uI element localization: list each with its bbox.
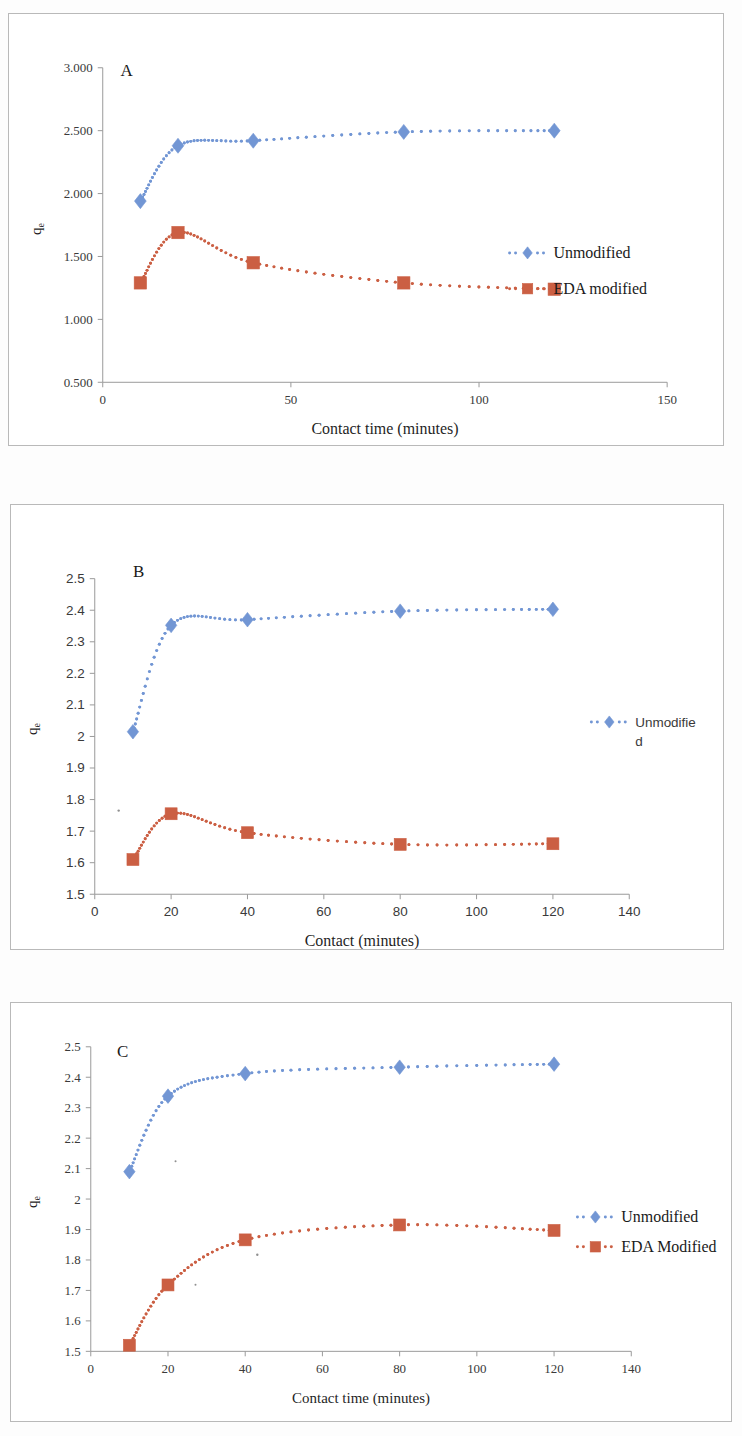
chart-b-plot-area: 1.51.61.71.81.922.12.22.32.42.5020406080…: [11, 505, 723, 949]
x-tick-label: 0: [100, 392, 106, 407]
data-point-eda: [398, 277, 410, 289]
legend-marker-unmodified: [605, 716, 614, 728]
x-tick-label: 60: [316, 1361, 329, 1376]
y-tick-label: 1.5: [65, 1344, 81, 1359]
y-tick-label: 1.6: [65, 1313, 82, 1328]
y-tick-label: 1.7: [66, 824, 85, 839]
legend-marker-eda: [522, 284, 532, 294]
legend-marker-unmodified: [591, 1211, 600, 1223]
y-tick-label: 1.8: [65, 1252, 81, 1267]
y-tick-label: 2.2: [66, 666, 85, 681]
y-axis-title: qe: [28, 222, 46, 234]
series-line-eda: [131, 812, 554, 861]
x-tick-label: 60: [316, 904, 331, 919]
series-line-eda: [139, 231, 556, 291]
y-tick-label: 1.500: [64, 249, 93, 264]
y-tick-label: 0.500: [64, 375, 93, 390]
x-tick-label: 140: [622, 1361, 641, 1376]
y-tick-label: 1.000: [64, 312, 93, 327]
data-point-eda: [165, 808, 177, 820]
x-tick-label: 140: [618, 904, 640, 919]
data-point-eda: [241, 827, 253, 839]
y-tick-label: 2: [77, 729, 84, 744]
chart-c-svg: 1.51.61.71.81.922.12.22.32.42.5020406080…: [11, 1003, 731, 1421]
chart-panel-c: 1.51.61.71.81.922.12.22.32.42.5020406080…: [10, 1002, 732, 1422]
y-tick-label: 2.2: [65, 1131, 81, 1146]
data-point-unmodified: [394, 604, 405, 619]
x-tick-label: 120: [544, 1361, 563, 1376]
y-tick-label: 2.5: [65, 1039, 81, 1054]
legend-label: Unmodifie: [635, 715, 696, 730]
data-point-unmodified: [127, 724, 138, 739]
data-point-eda: [547, 838, 559, 850]
legend-marker-unmodified: [523, 247, 532, 259]
y-axis-title: qe: [24, 722, 42, 734]
scan-speck: [118, 809, 120, 811]
y-tick-label: 1.9: [66, 761, 85, 776]
data-point-unmodified: [398, 124, 410, 139]
data-point-unmodified: [394, 1060, 405, 1075]
x-tick-label: 40: [240, 904, 255, 919]
y-tick-label: 1.9: [65, 1222, 81, 1237]
data-point-eda: [123, 1339, 135, 1351]
data-point-unmodified: [240, 1066, 251, 1081]
scan-speck: [194, 1284, 196, 1286]
data-point-unmodified: [548, 123, 560, 138]
x-tick-label: 100: [465, 904, 487, 919]
y-tick-label: 2.500: [64, 123, 93, 138]
data-point-eda: [134, 277, 146, 289]
data-point-unmodified: [247, 133, 259, 148]
y-tick-label: 3.000: [64, 60, 93, 75]
legend-label-cont: d: [635, 734, 642, 749]
legend-label: Unmodified: [553, 244, 630, 261]
x-tick-label: 0: [91, 904, 98, 919]
y-tick-label: 1.5: [66, 887, 85, 902]
y-tick-label: 2.5: [66, 571, 85, 586]
y-tick-label: 2.3: [66, 634, 85, 649]
panel-letter: C: [117, 1042, 128, 1061]
y-tick-label: 1.6: [66, 855, 85, 870]
series-line-unmodified: [128, 1063, 556, 1173]
data-point-eda: [247, 257, 259, 269]
x-tick-label: 20: [164, 904, 179, 919]
chart-a-plot-area: 0.5001.0001.5002.0002.5003.000050100150A…: [9, 14, 723, 445]
data-point-eda: [239, 1234, 251, 1246]
chart-b-svg: 1.51.61.71.81.922.12.22.32.42.5020406080…: [11, 505, 723, 949]
x-tick-label: 20: [162, 1361, 175, 1376]
data-point-unmodified: [124, 1164, 135, 1179]
x-axis-title: Contact time (minutes): [311, 420, 458, 438]
data-point-unmodified: [165, 618, 176, 633]
chart-c-plot-area: 1.51.61.71.81.922.12.22.32.42.5020406080…: [11, 1003, 731, 1421]
x-tick-label: 100: [467, 1361, 486, 1376]
y-tick-label: 1.8: [66, 792, 85, 807]
y-tick-label: 2.3: [65, 1100, 81, 1115]
data-point-unmodified: [547, 602, 558, 617]
y-tick-label: 2.1: [66, 697, 85, 712]
series-line-unmodified: [139, 129, 556, 202]
data-point-eda: [548, 1224, 560, 1236]
data-point-unmodified: [242, 612, 253, 627]
data-point-eda: [394, 1219, 406, 1231]
x-tick-label: 0: [88, 1361, 94, 1376]
x-tick-label: 120: [542, 904, 564, 919]
x-axis-title: Contact (minutes): [305, 932, 420, 949]
data-point-eda: [394, 838, 406, 850]
x-axis-title: Contact time (minutes): [292, 1390, 430, 1407]
data-point-eda: [127, 854, 139, 866]
x-tick-label: 80: [393, 1361, 406, 1376]
y-axis-title: qe: [24, 1196, 42, 1208]
chart-a-svg: 0.5001.0001.5002.0002.5003.000050100150A…: [9, 14, 723, 445]
series-line-unmodified: [131, 608, 554, 733]
data-point-unmodified: [162, 1089, 173, 1104]
panel-letter: A: [121, 61, 134, 80]
data-point-unmodified: [548, 1057, 559, 1072]
legend-label: EDA Modified: [621, 1238, 716, 1255]
chart-panel-a: 0.5001.0001.5002.0002.5003.000050100150A…: [8, 13, 724, 446]
x-tick-label: 50: [284, 392, 297, 407]
scan-speck: [256, 1254, 258, 1256]
panel-letter: B: [133, 562, 144, 581]
series-line-eda: [128, 1223, 556, 1346]
x-tick-label: 80: [393, 904, 408, 919]
data-point-eda: [172, 226, 184, 238]
figure-page: 0.5001.0001.5002.0002.5003.000050100150A…: [0, 0, 742, 1436]
